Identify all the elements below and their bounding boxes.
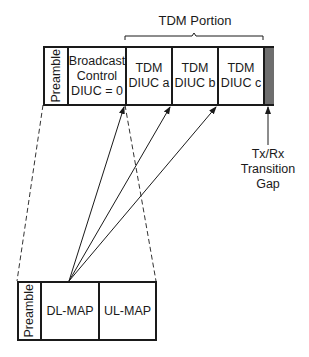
arrow-to-tdm-a (69, 107, 124, 281)
dl-map-cell: DL-MAP (42, 283, 98, 339)
tdm-diuc-c-cell: TDM DIUC c (219, 48, 263, 104)
gap-label-line-2: Transition (233, 162, 303, 177)
gap-label-line-1: Tx/Rx (233, 147, 303, 162)
broadcast-control-cell: Broadcast Control DIUC = 0 (69, 48, 125, 104)
preamble-cell: Preamble (45, 48, 67, 104)
gap-label-line-3: Gap (233, 177, 303, 192)
tdm-b-line-1: TDM (175, 61, 216, 76)
broadcast-control-expanded: Preamble DL-MAP UL-MAP (17, 281, 157, 341)
tdm-diuc-b-cell: TDM DIUC b (173, 48, 217, 104)
preamble-label: Preamble (49, 49, 64, 103)
arrow-to-tdm-b (69, 107, 170, 281)
tdm-c-line-1: TDM (221, 61, 261, 76)
ul-map-cell: UL-MAP (100, 283, 155, 339)
tdm-diuc-a-cell: TDM DIUC a (127, 48, 171, 104)
dl-map-label: DL-MAP (46, 304, 93, 319)
downlink-subframe: Preamble Broadcast Control DIUC = 0 TDM … (43, 46, 274, 106)
broadcast-line-2: Control (69, 69, 125, 84)
dashed-zoom-line-left (17, 105, 43, 281)
preamble-label: Preamble (22, 284, 37, 338)
tdm-portion-label: TDM Portion (150, 13, 240, 28)
broadcast-line-3: DIUC = 0 (69, 84, 125, 99)
broadcast-line-1: Broadcast (69, 54, 125, 69)
arrow-to-tdm-c (69, 107, 216, 281)
tdm-a-line-2: DIUC a (129, 76, 170, 91)
tx-rx-transition-gap-label: Tx/Rx Transition Gap (233, 147, 303, 192)
tdm-c-line-2: DIUC c (221, 76, 261, 91)
dashed-zoom-line-right (125, 105, 156, 281)
tdm-portion-bracket (125, 33, 263, 40)
tdm-a-line-1: TDM (129, 61, 170, 76)
transition-gap-cell (265, 48, 274, 104)
tdm-b-line-2: DIUC b (175, 76, 216, 91)
ul-map-label: UL-MAP (104, 304, 151, 319)
preamble-cell: Preamble (19, 283, 40, 339)
